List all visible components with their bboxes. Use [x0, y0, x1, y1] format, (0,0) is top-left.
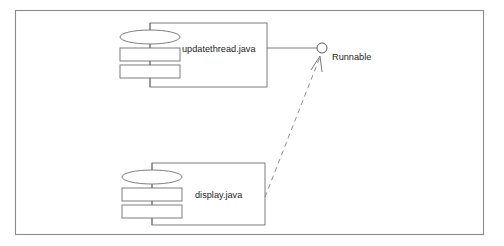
- realization-arrowhead-icon: [311, 56, 322, 72]
- interface-label-runnable: Runnable: [332, 52, 371, 62]
- component-updatethread[interactable]: updatethread.java: [120, 23, 267, 87]
- realization-line: [265, 57, 320, 197]
- component-ellipse-updatethread: [120, 30, 180, 44]
- component-tab-updatethread-2: [120, 65, 180, 78]
- component-tab-display-2: [122, 205, 182, 218]
- diagram-canvas: updatethread.java display.java Runnable: [0, 0, 504, 246]
- component-tab-updatethread-1: [120, 48, 180, 61]
- component-label-display: display.java: [195, 190, 243, 200]
- component-label-updatethread: updatethread.java: [182, 44, 256, 54]
- component-ellipse-display: [122, 170, 182, 184]
- component-tab-display-1: [122, 188, 182, 201]
- realization-display-to-runnable[interactable]: [265, 56, 322, 197]
- interface-circle-runnable: [317, 43, 327, 53]
- component-display[interactable]: display.java: [122, 163, 265, 225]
- component-diagram: updatethread.java display.java Runnable: [0, 0, 504, 246]
